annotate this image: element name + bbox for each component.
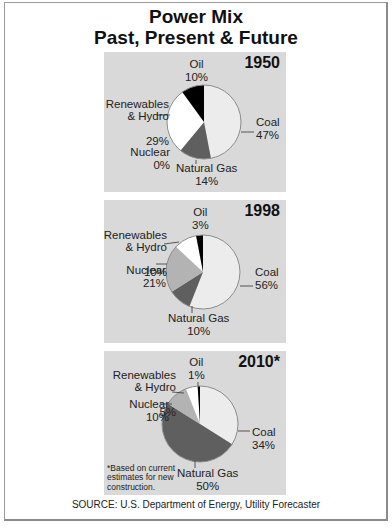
label-name: Renewables & Hydro xyxy=(104,229,167,254)
footnote: *Based on current estimates for new cons… xyxy=(107,464,175,493)
label-natural-gas: Natural Gas 50% xyxy=(177,467,238,492)
label-pct: 21% xyxy=(126,277,166,290)
label-nuclear: Nuclear 21% xyxy=(126,264,166,289)
label-natural-gas: Natural Gas 10% xyxy=(168,312,229,337)
label-name: Coal xyxy=(256,116,280,129)
label-name: Oil xyxy=(185,58,208,71)
chart-title: Power Mix Past, Present & Future xyxy=(0,6,392,48)
label-pct: 10% xyxy=(168,325,229,338)
label-pct: 56% xyxy=(255,279,279,292)
label-pct: 14% xyxy=(176,175,237,188)
pie-panel-1950: 1950 Oil 10% Renewables & Hydro 29% Coal… xyxy=(104,52,286,192)
label-pct: 10% xyxy=(185,71,208,84)
label-oil: Oil 1% xyxy=(188,356,205,381)
label-pct: 10% xyxy=(129,411,169,424)
label-pct: 1% xyxy=(188,369,205,382)
label-pct: 0% xyxy=(130,159,170,172)
label-natural-gas: Natural Gas 14% xyxy=(176,162,237,187)
label-coal: Coal 47% xyxy=(256,116,280,141)
panel-year: 1998 xyxy=(244,202,280,220)
label-name: Nuclear xyxy=(129,398,169,411)
label-name: Oil xyxy=(188,356,205,369)
label-pct: 47% xyxy=(256,129,280,142)
panel-year: 2010* xyxy=(238,353,280,371)
label-coal: Coal 34% xyxy=(252,426,276,451)
label-name: Natural Gas xyxy=(176,162,237,175)
label-name: Renewables & Hydro xyxy=(113,369,176,394)
title-line-1: Power Mix xyxy=(0,6,392,27)
source-note: SOURCE: U.S. Department of Energy, Utili… xyxy=(0,499,392,510)
label-name: Nuclear xyxy=(126,264,166,277)
label-name: Natural Gas xyxy=(168,312,229,325)
label-name: Oil xyxy=(192,206,209,219)
label-pct: 34% xyxy=(252,439,276,452)
panel-year: 1950 xyxy=(244,54,280,72)
pie-panel-2010: 2010* Oil 1% Renewables & Hydro 5% Nucle… xyxy=(104,351,286,495)
label-pct: 50% xyxy=(177,480,238,493)
label-pct: 3% xyxy=(192,219,209,232)
label-name: Renewables & Hydro xyxy=(106,98,169,123)
label-nuclear: Nuclear 10% xyxy=(129,398,169,423)
label-name: Coal xyxy=(255,266,279,279)
label-name: Nuclear xyxy=(130,146,170,159)
title-line-2: Past, Present & Future xyxy=(0,27,392,48)
pie-slice-coal xyxy=(204,85,241,158)
label-name: Coal xyxy=(252,426,276,439)
label-name: Natural Gas xyxy=(177,467,238,480)
label-coal: Coal 56% xyxy=(255,266,279,291)
label-oil: Oil 10% xyxy=(185,58,208,83)
label-oil: Oil 3% xyxy=(192,206,209,231)
pie-panel-1998: 1998 Oil 3% Renewables & Hydro 10% Nucle… xyxy=(104,200,286,343)
label-nuclear: Nuclear 0% xyxy=(130,146,170,171)
